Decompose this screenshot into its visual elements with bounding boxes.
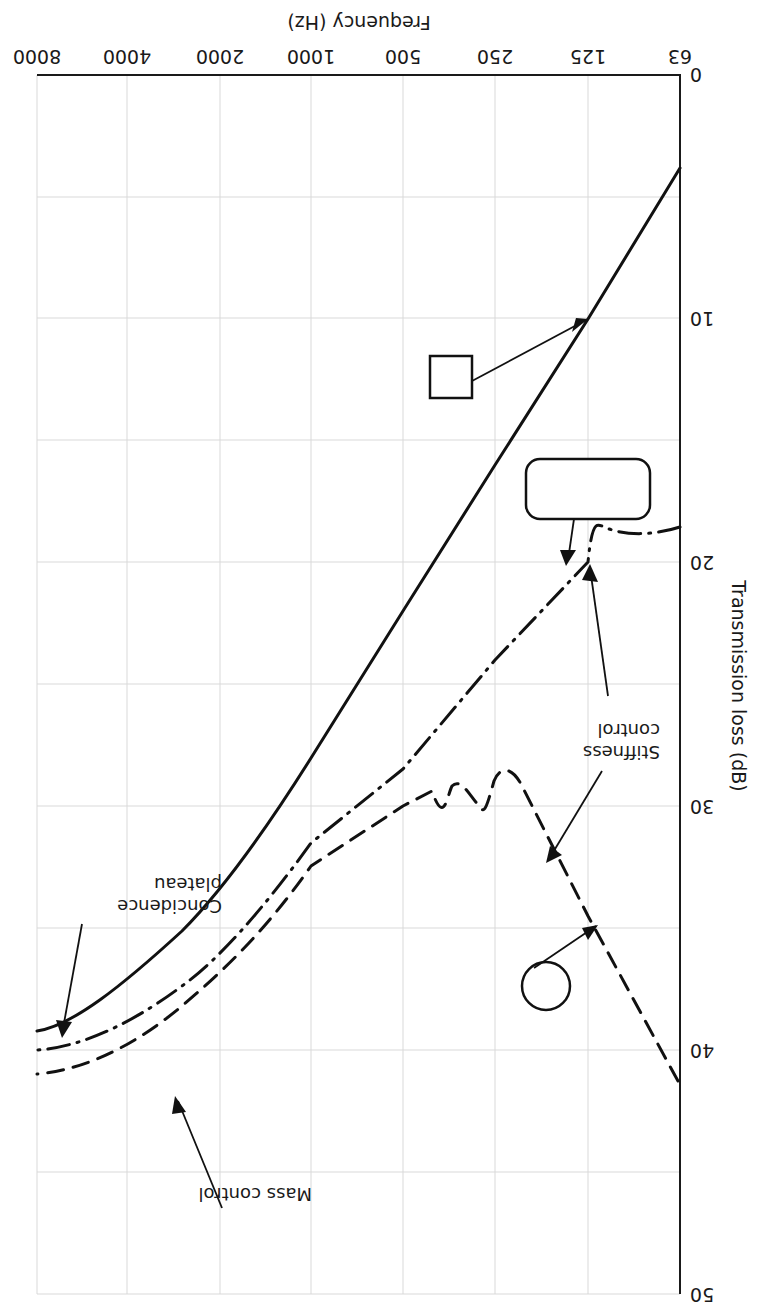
x-tick-labels: 63 125 250 500 1000 2000 4000 8000 [13,46,692,68]
rounded-rect-marker [526,459,650,519]
rounded-rect-pointer-arrowhead [560,550,576,566]
coincidence-label-line2: plateau [154,874,222,895]
svg-text:63: 63 [668,46,692,68]
svg-text:20: 20 [690,552,714,574]
coincidence-arrowhead [56,1020,72,1038]
transmission-loss-chart: 63 125 250 500 1000 2000 4000 8000 Frequ… [0,0,762,1306]
circle-marker [522,962,570,1010]
coincidence-label-line1: Concidence [117,896,222,917]
svg-text:1000: 1000 [287,46,335,68]
stiffness-pointer-2 [549,771,602,859]
svg-text:50: 50 [690,1284,714,1306]
square-marker [430,356,472,398]
mass-label: Mass control [199,1184,312,1205]
svg-text:125: 125 [570,46,606,68]
y-tick-labels: 0 10 20 30 40 50 [690,64,714,1306]
svg-text:0: 0 [690,64,702,86]
x-axis-title: Frequency (Hz) [287,12,430,34]
svg-text:2000: 2000 [196,46,244,68]
svg-text:250: 250 [477,46,513,68]
svg-text:4000: 4000 [103,46,151,68]
svg-text:30: 30 [690,796,714,818]
svg-text:500: 500 [385,46,421,68]
svg-text:10: 10 [690,308,714,330]
stiffness-label-line2: control [598,720,660,741]
dash-dot-curve [37,525,680,1050]
svg-text:8000: 8000 [13,46,61,68]
square-pointer [472,319,588,381]
dashed-curve [37,770,678,1081]
y-axis-title: Transmission loss (dB) [728,579,750,791]
stiffness-label-line1: Stiffness [583,742,660,763]
stiffness-pointer-1 [590,568,608,696]
mass-arrowhead [172,1096,186,1114]
svg-text:40: 40 [690,1040,714,1062]
